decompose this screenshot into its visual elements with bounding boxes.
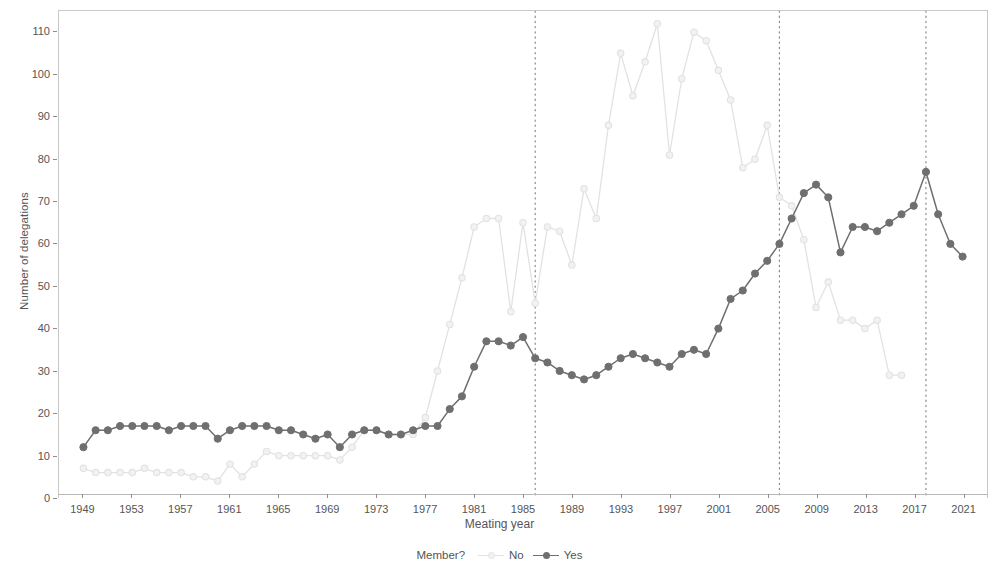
data-point xyxy=(886,372,892,378)
x-tick-mark xyxy=(817,494,818,498)
data-point xyxy=(740,164,746,170)
y-tick-label: 10 xyxy=(8,450,50,462)
data-point xyxy=(959,253,966,260)
data-point xyxy=(874,317,880,323)
x-tick-mark xyxy=(915,494,916,498)
data-point xyxy=(922,168,929,175)
data-point xyxy=(141,465,147,471)
data-point xyxy=(935,211,942,218)
x-tick-mark xyxy=(523,494,524,498)
data-point xyxy=(727,97,733,103)
x-tick-mark xyxy=(376,494,377,498)
data-point xyxy=(495,215,501,221)
data-point xyxy=(129,422,136,429)
data-point xyxy=(214,435,221,442)
data-point xyxy=(337,457,343,463)
data-point xyxy=(825,194,832,201)
data-point xyxy=(129,469,135,475)
legend-key-yes-icon xyxy=(533,550,559,561)
x-tick-mark xyxy=(278,494,279,498)
data-point xyxy=(544,224,550,230)
series-no xyxy=(80,21,904,485)
data-point xyxy=(471,363,478,370)
y-tick-label: 90 xyxy=(8,110,50,122)
x-tick-label: 1989 xyxy=(560,503,584,515)
x-tick-label: 1949 xyxy=(70,503,94,515)
data-point xyxy=(617,50,623,56)
data-point xyxy=(165,427,172,434)
data-point xyxy=(532,355,539,362)
data-point xyxy=(458,393,465,400)
data-point xyxy=(397,431,404,438)
data-point xyxy=(483,338,490,345)
x-tick-label: 2021 xyxy=(951,503,975,515)
data-point xyxy=(605,363,612,370)
data-point xyxy=(276,452,282,458)
data-point xyxy=(361,427,368,434)
data-point xyxy=(849,317,855,323)
data-point xyxy=(324,452,330,458)
legend-entry-no[interactable]: No xyxy=(478,549,524,561)
legend-key-no-icon xyxy=(478,550,504,561)
data-point xyxy=(654,359,661,366)
x-tick-label: 1977 xyxy=(413,503,437,515)
data-point xyxy=(312,452,318,458)
data-point xyxy=(666,152,672,158)
x-tick-mark xyxy=(719,494,720,498)
data-point xyxy=(263,448,269,454)
data-point xyxy=(178,422,185,429)
x-tick-label: 1997 xyxy=(658,503,682,515)
y-tick-mark xyxy=(53,328,57,329)
x-tick-mark xyxy=(229,494,230,498)
data-point xyxy=(593,215,599,221)
data-point xyxy=(739,287,746,294)
data-point xyxy=(300,452,306,458)
data-point xyxy=(532,300,538,306)
data-point xyxy=(422,414,428,420)
data-point xyxy=(190,474,196,480)
data-point xyxy=(336,444,343,451)
plot-panel xyxy=(58,10,988,498)
delegations-line-chart: Number of delegations 010203040506070809… xyxy=(0,0,999,576)
x-tick-label: 1985 xyxy=(511,503,535,515)
data-point xyxy=(654,21,660,27)
x-tick-mark xyxy=(621,494,622,498)
data-point xyxy=(715,67,721,73)
data-point xyxy=(227,461,233,467)
data-point xyxy=(788,203,794,209)
data-point xyxy=(410,427,417,434)
chart-legend: Member? No Yes xyxy=(0,549,999,561)
data-point xyxy=(251,422,258,429)
data-point xyxy=(92,427,99,434)
x-tick-label: 1969 xyxy=(315,503,339,515)
x-tick-mark xyxy=(327,494,328,498)
data-point xyxy=(678,350,685,357)
legend-entry-yes[interactable]: Yes xyxy=(533,549,583,561)
data-point xyxy=(764,257,771,264)
x-tick-mark xyxy=(425,494,426,498)
data-point xyxy=(215,478,221,484)
data-point xyxy=(288,452,294,458)
data-point xyxy=(178,469,184,475)
y-tick-label: 30 xyxy=(8,365,50,377)
data-point xyxy=(617,355,624,362)
data-point xyxy=(202,422,209,429)
legend-label-yes: Yes xyxy=(564,549,583,561)
data-point xyxy=(752,156,758,162)
data-point xyxy=(117,469,123,475)
x-tick-label: 1981 xyxy=(462,503,486,515)
y-tick-mark xyxy=(53,243,57,244)
y-tick-label: 50 xyxy=(8,280,50,292)
y-tick-mark xyxy=(53,413,57,414)
data-point xyxy=(605,122,611,128)
data-point xyxy=(312,435,319,442)
data-point xyxy=(385,431,392,438)
data-point xyxy=(825,279,831,285)
plot-area xyxy=(59,11,987,498)
y-tick-label: 110 xyxy=(8,25,50,37)
data-point xyxy=(813,304,819,310)
data-point xyxy=(874,228,881,235)
series-line xyxy=(83,172,962,447)
data-point xyxy=(92,469,98,475)
y-tick-mark xyxy=(53,456,57,457)
